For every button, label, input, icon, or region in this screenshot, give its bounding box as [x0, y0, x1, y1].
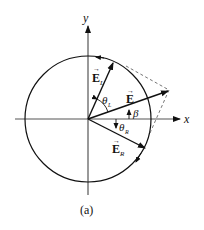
y-axis-label: y [82, 11, 89, 25]
theta-R-subscript: R [124, 129, 129, 135]
E-R-label: E [112, 142, 120, 156]
theta-L-subscript: L [107, 102, 112, 108]
E-R-subscript: R [119, 150, 125, 158]
E-L-subscript: L [99, 79, 104, 87]
x-axis-label: x [183, 112, 190, 126]
circle-arrow-bottom-icon [136, 153, 141, 162]
figure-caption: (a) [80, 203, 93, 217]
beta-symbol: β [132, 107, 139, 119]
E-label: E [126, 92, 134, 106]
E-L-label: E [92, 71, 100, 85]
polarization-diagram: y x → E L → E → E R θ L β θ R (a) [0, 0, 204, 230]
